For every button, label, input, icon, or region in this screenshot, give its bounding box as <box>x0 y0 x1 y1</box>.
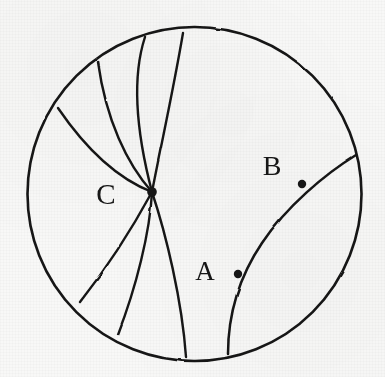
geodesic-through-A-and-B <box>228 155 356 354</box>
geodesic-C-to-upper-top-left <box>137 37 152 192</box>
point-c-dot <box>147 187 157 197</box>
geodesic-C-to-lower-left-lower <box>118 192 152 334</box>
geodesic-C-to-bottom <box>152 192 186 357</box>
disk-boundary-circle <box>28 27 362 361</box>
point-b-label: B <box>263 150 282 181</box>
point-b-dot <box>298 180 306 188</box>
point-a-dot <box>234 270 242 278</box>
poincare-disk-figure: A B C <box>0 0 385 377</box>
geodesic-C-to-lower-left <box>80 192 152 302</box>
hyperbolic-geometry-drawing: A B C <box>0 0 385 377</box>
geodesic-C-to-upper-left <box>98 62 152 192</box>
point-a-label: A <box>195 256 215 286</box>
point-c-label: C <box>96 178 115 210</box>
geodesic-C-to-top <box>152 33 183 192</box>
